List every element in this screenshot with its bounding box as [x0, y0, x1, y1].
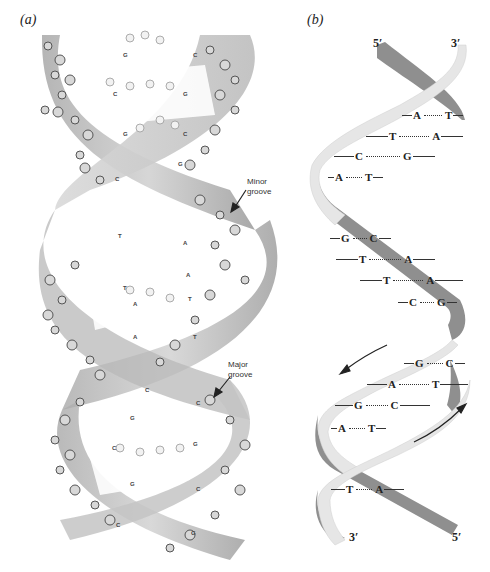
base-left: C: [408, 296, 418, 308]
base-right: A: [374, 483, 384, 495]
base-left: T: [382, 274, 391, 286]
base-right: G: [436, 296, 447, 308]
base-right: A: [431, 130, 441, 142]
base-right: A: [425, 274, 435, 286]
base-right: C: [390, 399, 400, 411]
base-pair: AT: [328, 171, 383, 183]
three-prime-bottom-label: 3′: [349, 530, 358, 545]
backbone-bond: [336, 259, 358, 260]
base-left: A: [412, 109, 422, 121]
base-pair: GC: [335, 399, 430, 411]
base-left: G: [414, 357, 425, 369]
hydrogen-bond: [427, 363, 443, 364]
hydrogen-bond: [369, 259, 401, 260]
hydrogen-bond: [393, 280, 423, 281]
base-right: T: [367, 422, 376, 434]
backbone-bond: [435, 280, 463, 281]
backbone-bond: [441, 136, 463, 137]
base-left: G: [340, 232, 351, 244]
backbone-bond: [402, 115, 412, 116]
backbone-bond: [331, 489, 345, 490]
base-left: T: [388, 130, 397, 142]
hydrogen-bond: [399, 136, 429, 137]
base-left: A: [334, 171, 344, 183]
base-pair: AT: [402, 109, 463, 121]
backbone-bond: [335, 405, 353, 406]
base-pair: TA: [366, 130, 463, 142]
base-right: G: [402, 150, 413, 162]
backbone-bond: [455, 363, 465, 364]
backbone-bond: [440, 384, 468, 385]
five-prime-bottom-label: 5′: [452, 530, 461, 545]
base-left: A: [337, 422, 347, 434]
hydrogen-bond: [349, 428, 365, 429]
base-pair: GC: [404, 357, 465, 369]
backbone-bond: [384, 489, 404, 490]
backbone-bond: [398, 302, 408, 303]
hydrogen-bond: [353, 238, 367, 239]
base-right: A: [403, 253, 413, 265]
backbone-bond: [447, 302, 457, 303]
base-right: T: [364, 171, 373, 183]
base-left: T: [345, 483, 354, 495]
hydrogen-bond: [424, 115, 442, 116]
base-left: G: [353, 399, 364, 411]
hydrogen-bond: [366, 405, 388, 406]
hydrogen-bond: [420, 302, 434, 303]
backbone-bond: [404, 363, 414, 364]
base-right: T: [444, 109, 453, 121]
backbone-bond: [367, 384, 387, 385]
hydrogen-bond: [366, 156, 400, 157]
backbone-bond: [453, 115, 463, 116]
base-left: A: [387, 378, 397, 390]
base-pair: GC: [330, 232, 391, 244]
base-pair: AT: [331, 422, 386, 434]
base-right: C: [369, 232, 379, 244]
base-pair: AT: [367, 378, 468, 390]
three-prime-top-label: 3′: [451, 36, 460, 51]
hydrogen-bond: [346, 177, 362, 178]
backbone-bond: [400, 405, 430, 406]
backbone-bond: [330, 238, 340, 239]
backbone-bond: [379, 238, 391, 239]
base-left: C: [354, 150, 364, 162]
backbone-bond: [373, 177, 383, 178]
backbone-bond: [413, 156, 435, 157]
five-prime-top-label: 5′: [373, 36, 382, 51]
base-pair: TA: [336, 253, 435, 265]
base-pair: TA: [331, 483, 404, 495]
hydrogen-bond: [356, 489, 372, 490]
base-left: T: [358, 253, 367, 265]
ribbon-helix-panel-b: [0, 0, 490, 572]
base-right: C: [445, 357, 455, 369]
backbone-bond: [376, 428, 386, 429]
base-pair: CG: [334, 150, 435, 162]
backbone-bond: [360, 280, 382, 281]
backbone-bond: [334, 156, 354, 157]
backbone-bond: [413, 259, 435, 260]
backbone-bond: [366, 136, 388, 137]
base-pair: TA: [360, 274, 463, 286]
base-right: T: [431, 378, 440, 390]
base-pair: CG: [398, 296, 457, 308]
hydrogen-bond: [399, 384, 429, 385]
